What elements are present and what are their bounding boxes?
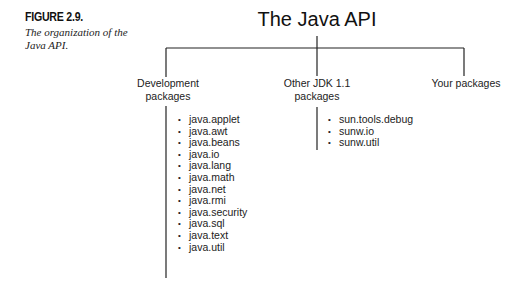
bullet-icon: •: [178, 126, 181, 138]
bullet-icon: •: [178, 218, 181, 230]
package-name: sunw.util: [339, 136, 379, 148]
package-name: java.sql: [189, 217, 225, 229]
branch-development-label-line2: packages: [126, 90, 210, 103]
package-name: java.io: [189, 148, 219, 160]
package-name: java.rmi: [189, 194, 226, 206]
bullet-icon: •: [178, 230, 181, 242]
package-name: java.text: [189, 229, 228, 241]
branch-other-jdk-label-line2: packages: [272, 90, 362, 103]
branch-development-label: Development packages: [126, 77, 210, 103]
branch-your-packages-label: Your packages: [420, 77, 512, 90]
package-name: java.beans: [189, 136, 240, 148]
bullet-icon: •: [178, 149, 181, 161]
diagram-root-title: The Java API: [0, 8, 513, 31]
development-package-list: •java.applet•java.awt•java.beans•java.io…: [178, 114, 247, 253]
bullet-icon: •: [178, 172, 181, 184]
bullet-icon: •: [328, 114, 331, 126]
other-jdk-package-item: •sunw.util: [328, 137, 413, 149]
bullet-icon: •: [178, 137, 181, 149]
branch-other-jdk-label-line1: Other JDK 1.1: [272, 77, 362, 90]
branch-development-label-line1: Development: [126, 77, 210, 90]
other-jdk-package-list: •sun.tools.debug•sunw.io•sunw.util: [328, 114, 413, 149]
package-name: java.net: [189, 183, 226, 195]
bullet-icon: •: [178, 184, 181, 196]
bullet-icon: •: [178, 207, 181, 219]
bullet-icon: •: [328, 126, 331, 138]
package-name: java.lang: [189, 159, 231, 171]
bullet-icon: •: [178, 195, 181, 207]
package-name: sun.tools.debug: [339, 113, 413, 125]
package-name: java.math: [189, 171, 235, 183]
development-package-item: •java.util: [178, 242, 247, 254]
package-name: java.util: [189, 241, 225, 253]
bullet-icon: •: [178, 242, 181, 254]
package-name: sunw.io: [339, 125, 374, 137]
package-name: java.applet: [189, 113, 240, 125]
branch-other-jdk-label: Other JDK 1.1 packages: [272, 77, 362, 103]
tree-connectors: [0, 0, 513, 287]
bullet-icon: •: [328, 137, 331, 149]
package-name: java.awt: [189, 125, 228, 137]
bullet-icon: •: [178, 160, 181, 172]
package-name: java.security: [189, 206, 247, 218]
branch-your-packages-label-line1: Your packages: [420, 77, 512, 90]
bullet-icon: •: [178, 114, 181, 126]
